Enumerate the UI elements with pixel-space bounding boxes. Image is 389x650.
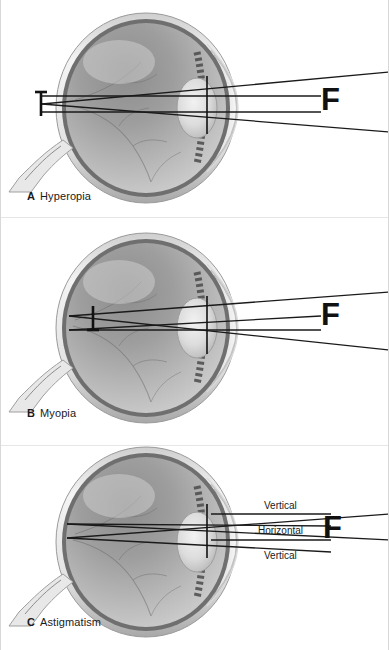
focal-point-label-hyperopia: F [321,84,340,115]
ray-label-vertical-top: Vertical [264,500,297,511]
caption-astigmatism: CAstigmatism [27,616,101,628]
caption-hyperopia: AHyperopia [27,190,91,202]
lens [177,78,217,138]
caption-label: Hyperopia [40,190,91,202]
panel-astigmatism: CAstigmatism F Vertical Horizontal Verti… [1,446,389,650]
ray-label-horizontal: Horizontal [258,525,303,536]
caption-myopia: BMyopia [27,407,76,419]
caption-letter: C [27,616,35,628]
eye-refractive-error-figure: AHyperopia F [0,0,389,650]
ray-label-vertical-bottom: Vertical [264,550,297,561]
optic-nerve [9,140,73,192]
caption-letter: A [27,190,35,202]
focal-point-label-myopia: F [321,299,340,330]
caption-label: Astigmatism [40,616,101,628]
optic-nerve [9,360,73,412]
panel-myopia: BMyopia F [1,218,389,446]
focal-point-label-astigmatism: F [323,512,342,543]
lens [177,512,217,572]
caption-letter: B [27,407,35,419]
panel-hyperopia: AHyperopia F [1,0,389,218]
caption-label: Myopia [40,407,76,419]
